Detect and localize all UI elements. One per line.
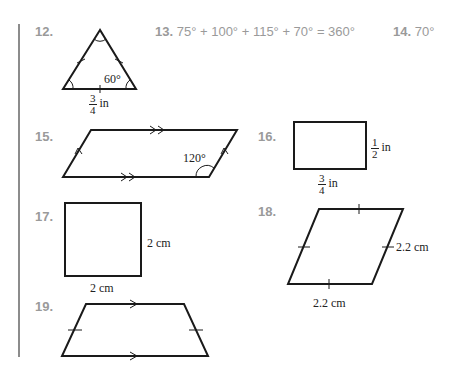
figures-canvas: [0, 0, 451, 376]
angle-arc: [69, 80, 73, 89]
problem-16-height-label: 12in: [371, 137, 391, 160]
problem-18-bottom-label: 2.2 cm: [313, 296, 346, 311]
problem-17-side-label: 2 cm: [147, 236, 171, 251]
equilateral-triangle-figure: [63, 30, 136, 89]
problem-15-angle-label: 120°: [183, 151, 206, 166]
angle-arc: [94, 39, 106, 41]
problem-12-side-label: 34in: [89, 93, 109, 116]
problem-18-side-label: 2.2 cm: [396, 240, 429, 255]
parallelogram-figure: [63, 130, 237, 177]
angle-arc: [126, 80, 130, 89]
square-figure: [65, 203, 141, 276]
problem-17-bottom-label: 2 cm: [90, 281, 114, 296]
rectangle-figure: [294, 122, 366, 169]
problem-16-width-label: 34in: [318, 173, 338, 196]
trapezoid-figure: [62, 304, 208, 356]
problem-12-angle-label: 60°: [104, 72, 121, 87]
